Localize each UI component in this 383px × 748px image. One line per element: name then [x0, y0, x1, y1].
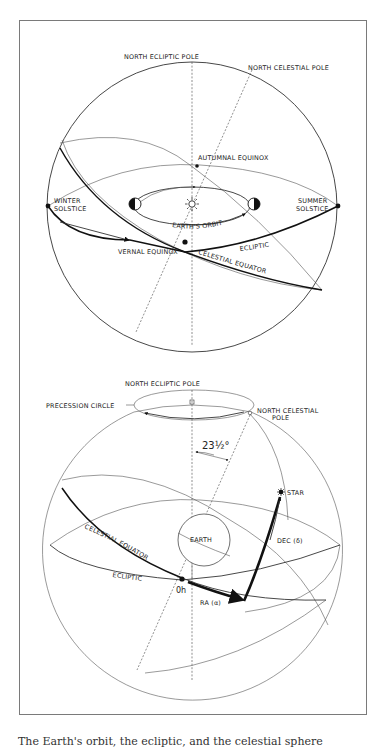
celestial-axis — [136, 70, 252, 332]
zero-hour-point — [179, 576, 184, 581]
label-zero-hour: 0h — [176, 586, 186, 595]
label-celestial-equator-bottom: CELESTIAL EQUATOR — [83, 523, 150, 563]
label-summer-solstice: SUMMER — [298, 197, 328, 205]
top-celestial-sphere: NORTH ECLIPTIC POLE NORTH CELESTIAL POLE… — [46, 53, 341, 352]
svg-text:SOLSTICE: SOLSTICE — [54, 205, 87, 213]
label-winter-solstice: WINTER — [54, 197, 81, 205]
label-declination: DEC (δ) — [277, 537, 303, 545]
label-earth: EARTH — [190, 536, 212, 544]
svg-text:SOLSTICE: SOLSTICE — [296, 205, 329, 213]
bottom-celestial-sphere: NORTH ECLIPTIC POLE PRECESSION CIRCLE NO… — [43, 380, 343, 700]
celestial-equator-bottom — [62, 488, 182, 578]
earth-right-icon — [248, 198, 260, 210]
label-star: STAR — [287, 489, 304, 497]
sun-icon — [185, 197, 199, 211]
celestial-equator-top — [60, 148, 322, 290]
figure-caption: The Earth's orbit, the ecliptic, and the… — [18, 735, 368, 748]
summer-solstice-point — [336, 204, 341, 209]
label-right-ascension: RA (α) — [200, 599, 221, 607]
label-north-celestial-pole: NORTH CELESTIAL POLE — [248, 64, 329, 72]
label-earths-orbit: EARTH'S ORBIT — [172, 219, 224, 231]
star-icon — [277, 488, 285, 496]
svg-text:POLE: POLE — [272, 414, 289, 422]
label-north-ecliptic-pole-bottom: NORTH ECLIPTIC POLE — [125, 380, 200, 388]
declination-arc — [244, 497, 280, 601]
label-tilt-angle: 23½° — [202, 440, 229, 451]
label-vernal-equinox: VERNAL EQUINOX — [118, 248, 178, 256]
label-precession-circle: PRECESSION CIRCLE — [46, 402, 115, 410]
earth-left-icon — [129, 198, 141, 210]
autumnal-equinox-point — [195, 164, 199, 168]
label-north-ecliptic-pole: NORTH ECLIPTIC POLE — [124, 53, 199, 61]
vernal-equinox-point — [182, 239, 187, 244]
label-autumnal-equinox: AUTUMNAL EQUINOX — [198, 154, 269, 162]
label-ecliptic-bottom: ECLIPTIC — [112, 571, 143, 583]
winter-solstice-point — [46, 204, 51, 209]
